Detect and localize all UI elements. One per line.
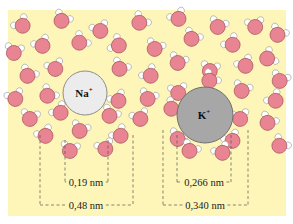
hydration-shell-diagram: Na+K+ 0,19 nm0,48 nm0,266 nm0,340 nm [0, 0, 293, 224]
distance-label: 0,340 nm [185, 200, 225, 211]
k-ion: K+ [177, 87, 233, 143]
distance-label: 0,266 nm [184, 177, 224, 188]
distance-label: 0,48 nm [69, 200, 103, 211]
distance-label: 0,19 nm [69, 177, 103, 188]
na-ion: Na+ [63, 71, 107, 115]
